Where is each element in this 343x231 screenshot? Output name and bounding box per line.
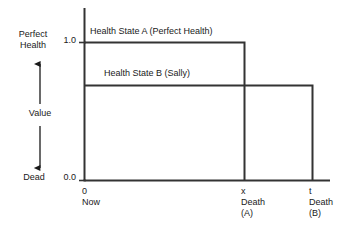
x-tick-origin-line2: Now xyxy=(82,197,152,208)
y-axis-middle-label: Value xyxy=(14,108,66,119)
x-tick-death-b-line2: Death xyxy=(309,197,343,208)
series-b-line xyxy=(84,86,313,181)
series-a-line xyxy=(84,43,245,181)
x-tick-death-a-symbol: x xyxy=(241,186,311,197)
x-tick-death-a-line2: Death xyxy=(241,197,311,208)
x-tick-death-a: x Death (A) xyxy=(241,186,311,219)
y-tick-label-zero: 0.0 xyxy=(42,172,76,183)
x-tick-death-b: t Death (B) xyxy=(309,186,343,219)
x-tick-death-a-line3: (A) xyxy=(241,208,311,219)
series-b-label: Health State B (Sally) xyxy=(104,68,284,79)
x-tick-origin: 0 Now xyxy=(82,186,152,208)
x-tick-death-b-symbol: t xyxy=(309,186,343,197)
x-tick-origin-symbol: 0 xyxy=(82,186,152,197)
qaly-diagram: Perfect Health Value Dead 1.0 0.0 Health… xyxy=(0,0,343,231)
series-a-label: Health State A (Perfect Health) xyxy=(90,26,280,37)
x-tick-death-b-line3: (B) xyxy=(309,208,343,219)
y-tick-label-one: 1.0 xyxy=(42,35,76,46)
